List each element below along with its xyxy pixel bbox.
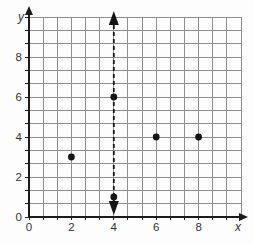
x-tick-label: 8 bbox=[195, 221, 201, 233]
data-point bbox=[153, 134, 160, 141]
scatter-plot-svg: 0246802468yx bbox=[0, 0, 253, 244]
x-axis-label: x bbox=[234, 220, 242, 234]
plot-background bbox=[0, 0, 253, 244]
y-axis-label: y bbox=[17, 10, 25, 24]
x-tick-label: 2 bbox=[68, 221, 74, 233]
x-tick-label: 4 bbox=[111, 221, 118, 233]
x-tick-label: 0 bbox=[26, 221, 32, 233]
data-point bbox=[110, 94, 117, 101]
y-tick-label: 2 bbox=[16, 171, 22, 183]
x-tick-label: 6 bbox=[153, 221, 159, 233]
data-point bbox=[195, 134, 202, 141]
y-tick-label: 6 bbox=[16, 91, 22, 103]
data-point bbox=[110, 194, 117, 201]
data-point bbox=[68, 154, 75, 161]
y-tick-label: 0 bbox=[16, 211, 22, 223]
coordinate-grid-figure: 0246802468yx bbox=[0, 0, 253, 244]
y-tick-label: 8 bbox=[16, 51, 22, 63]
y-tick-label: 4 bbox=[16, 131, 23, 143]
